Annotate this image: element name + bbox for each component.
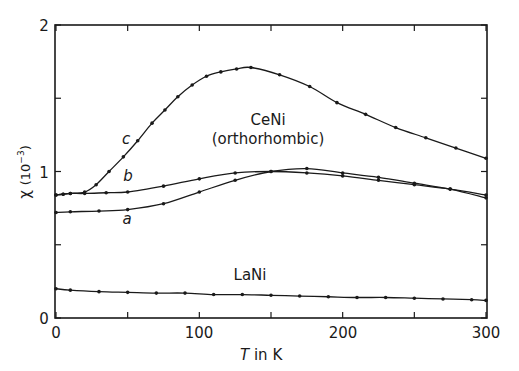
data-point — [341, 171, 345, 175]
data-point — [441, 297, 445, 301]
x-tick-200: 200 — [329, 324, 358, 342]
data-point — [233, 171, 237, 175]
data-point — [162, 184, 166, 188]
data-point — [104, 191, 108, 195]
data-point — [335, 101, 339, 105]
data-point — [162, 202, 166, 206]
data-point — [454, 146, 458, 150]
label-curve-a: a — [122, 210, 131, 228]
data-point — [54, 193, 58, 197]
curve-b — [56, 172, 486, 195]
data-point — [126, 291, 130, 295]
label-orthorhombic: (orthorhombic) — [212, 130, 325, 148]
data-point — [327, 295, 331, 299]
label-curve-b: b — [123, 167, 133, 185]
x-tick-0: 0 — [51, 324, 61, 342]
data-point — [278, 73, 282, 77]
data-point — [484, 299, 488, 303]
data-point — [269, 293, 273, 297]
y-axis-label: χ (10−3) — [16, 145, 34, 198]
data-point — [413, 296, 417, 300]
data-point — [190, 83, 194, 87]
y-axis-symbol: χ — [16, 190, 34, 199]
data-point — [69, 288, 73, 292]
data-point — [54, 287, 58, 291]
label-ceni: CeNi — [250, 111, 285, 129]
data-point — [83, 192, 87, 196]
y-axis-unit: (10 — [18, 164, 33, 186]
svg-text:χ (10−3): χ (10−3) — [16, 145, 34, 198]
data-point — [249, 66, 253, 70]
data-point — [198, 177, 202, 181]
data-point — [377, 176, 381, 180]
data-point — [355, 296, 359, 300]
data-point — [176, 95, 180, 99]
data-point — [269, 170, 273, 174]
data-point — [305, 171, 309, 175]
data-point — [384, 296, 388, 300]
data-point — [69, 192, 73, 196]
data-point — [107, 170, 111, 174]
data-point — [61, 192, 65, 196]
data-point — [424, 136, 428, 140]
label-curve-c: c — [122, 130, 131, 148]
data-point — [97, 290, 101, 294]
data-point — [484, 196, 488, 200]
y-tick-0: 0 — [39, 310, 49, 328]
label-lani: LaNi — [234, 266, 267, 284]
data-point — [150, 121, 154, 125]
data-point — [413, 181, 417, 185]
data-point — [97, 209, 101, 213]
data-point — [235, 67, 239, 71]
data-point — [155, 291, 159, 295]
x-axis-label: T in K — [240, 346, 283, 364]
data-point — [54, 211, 58, 215]
data-point — [394, 126, 398, 130]
data-point — [163, 108, 167, 112]
data-point — [484, 157, 488, 161]
data-point — [198, 190, 202, 194]
data-point — [219, 70, 223, 74]
y-axis-close: ) — [18, 145, 33, 150]
data-point — [122, 155, 126, 159]
data-point — [305, 167, 309, 171]
data-point — [205, 74, 209, 78]
data-point — [94, 183, 98, 187]
data-point — [233, 178, 237, 182]
data-point — [136, 139, 140, 143]
y-tick-1: 1 — [39, 164, 49, 182]
data-point — [448, 187, 452, 191]
curve-a — [56, 169, 486, 213]
data-point — [364, 113, 368, 117]
data-point — [308, 85, 312, 89]
data-point — [470, 298, 474, 302]
data-point — [298, 294, 302, 298]
data-point — [69, 210, 73, 214]
x-tick-100: 100 — [185, 324, 214, 342]
susceptibility-chart: 0 100 200 300 0 1 2 T in K χ (10−3) CeNi… — [0, 0, 519, 371]
x-axis-unit: in K — [249, 346, 283, 364]
y-axis-exp: −3 — [16, 150, 26, 163]
data-point — [241, 293, 245, 297]
data-point — [126, 190, 130, 194]
data-point — [183, 291, 187, 295]
y-tick-2: 2 — [39, 17, 49, 35]
x-tick-300: 300 — [472, 324, 501, 342]
data-curves — [54, 66, 488, 303]
data-point — [212, 293, 216, 297]
